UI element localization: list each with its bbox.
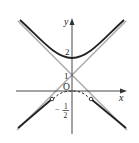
tick-label-neg-half-den: 2 [64,111,68,120]
tick-label-neg-half-num: 1 [64,102,68,111]
tick-label-2: 2 [65,47,70,57]
open-point-right [89,97,93,101]
x-axis-label: x [118,92,124,103]
lower-branch-right [91,99,126,128]
tick-label-neg-half-sign: − [55,105,60,114]
tick-label-1: 1 [64,71,69,81]
y-axis-arrow-icon [70,18,75,25]
y-axis-label: y [63,16,69,27]
open-point-left [50,97,54,101]
lower-branch-left [18,99,52,128]
lower-dashed-arc [53,91,90,99]
origin-label: O [63,82,70,92]
hyperbola-diagram: y x O 2 1 − 1 2 [0,0,139,143]
